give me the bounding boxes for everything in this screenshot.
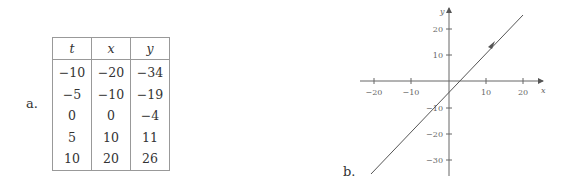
line-plot: −20 −10 10 20 20 10 −10 −20 −30 x y: [0, 0, 573, 188]
part-b-label: b.: [343, 164, 355, 179]
data-line: [371, 15, 523, 174]
y-tick-label: 10: [433, 51, 443, 60]
x-axis-label: x: [541, 86, 546, 95]
x-tick-label: 20: [518, 88, 528, 97]
x-tick-label: −10: [403, 88, 420, 97]
x-tick-label: 10: [481, 88, 491, 97]
y-tick-label: −30: [426, 156, 443, 165]
y-tick-label: −20: [426, 130, 443, 139]
y-axis-label: y: [439, 7, 445, 16]
y-tick-label: 20: [433, 25, 443, 34]
x-tick-label: −20: [366, 88, 383, 97]
y-tick-label: −10: [426, 104, 443, 113]
